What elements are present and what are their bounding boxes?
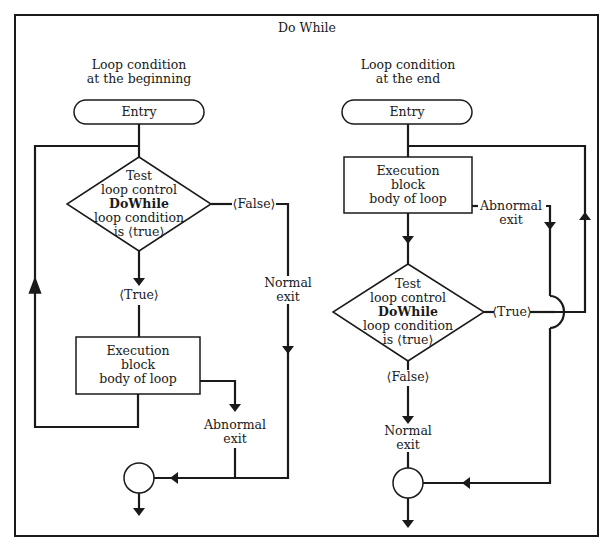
right-execution-line: Execution: [344, 164, 472, 178]
right-normal-exit-line: Normal: [376, 424, 440, 438]
left-heading-line1: Loop condition: [74, 58, 204, 72]
left-connector: [124, 463, 154, 493]
left-heading-line2: at the beginning: [74, 72, 204, 86]
right-entry-label: Entry: [342, 105, 472, 119]
left-normal-exit-line: exit: [256, 290, 320, 304]
left-true-label: ⟨True⟩: [110, 288, 168, 302]
left-abnormal-exit-line: Abnormal: [200, 418, 270, 432]
left-test-line: loop condition: [79, 211, 199, 225]
right-test-label: Test loop control DoWhile loop condition…: [348, 277, 468, 347]
right-execution-label: Execution block body of loop: [344, 164, 472, 206]
right-execution-line: block: [344, 178, 472, 192]
left-test-line: loop control: [79, 183, 199, 197]
diagram-title: Do While: [257, 21, 357, 35]
left-normal-exit-line: Normal: [256, 276, 320, 290]
right-test-line: Test: [348, 277, 468, 291]
right-connector: [393, 468, 423, 498]
right-execution-line: body of loop: [344, 192, 472, 206]
right-abnormal-exit-label: Abnormal exit: [476, 199, 546, 227]
left-heading: Loop condition at the beginning: [74, 58, 204, 86]
right-heading-line1: Loop condition: [343, 58, 473, 72]
left-execution-label: Execution block body of loop: [76, 344, 200, 386]
right-test-line: loop condition: [348, 319, 468, 333]
right-false-label: ⟨False⟩: [380, 370, 436, 384]
right-true-label: ⟨True⟩: [490, 305, 534, 319]
right-test-line: DoWhile: [348, 305, 468, 319]
right-test-line: loop control: [348, 291, 468, 305]
left-abnormal-exit-line: exit: [200, 432, 270, 446]
left-test-line: DoWhile: [79, 197, 199, 211]
right-abnormal-exit-line: Abnormal: [476, 199, 546, 213]
right-normal-exit-line: exit: [376, 438, 440, 452]
left-execution-line: block: [76, 358, 200, 372]
left-test-label: Test loop control DoWhile loop condition…: [79, 169, 199, 239]
right-normal-exit-label: Normal exit: [376, 424, 440, 452]
left-abnormal-exit-label: Abnormal exit: [200, 418, 270, 446]
left-execution-line: Execution: [76, 344, 200, 358]
right-heading-line2: at the end: [343, 72, 473, 86]
left-false-label: ⟨False⟩: [228, 197, 280, 211]
left-normal-exit-label: Normal exit: [256, 276, 320, 304]
left-test-line: is ⟨true⟩: [79, 225, 199, 239]
left-entry-label: Entry: [74, 105, 204, 119]
right-heading: Loop condition at the end: [343, 58, 473, 86]
right-test-line: is ⟨true⟩: [348, 333, 468, 347]
left-execution-line: body of loop: [76, 372, 200, 386]
left-test-line: Test: [79, 169, 199, 183]
right-abnormal-exit-line: exit: [476, 213, 546, 227]
